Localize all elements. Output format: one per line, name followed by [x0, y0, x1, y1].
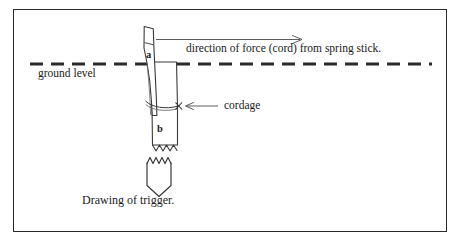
cordage-leader-arrow — [186, 103, 219, 110]
trigger-stick-a — [144, 27, 157, 116]
part-b-label: b — [157, 124, 163, 135]
detached-trigger-piece — [147, 158, 171, 197]
ground-level-label: ground level — [38, 68, 96, 80]
figure-container: ground level direction of force (cord) f… — [0, 0, 461, 243]
part-a-label: a — [146, 50, 151, 61]
cordage-label: cordage — [224, 100, 260, 112]
trigger-diagram — [0, 0, 461, 243]
force-direction-label: direction of force (cord) from spring st… — [186, 43, 381, 55]
figure-caption: Drawing of trigger. — [82, 194, 174, 206]
